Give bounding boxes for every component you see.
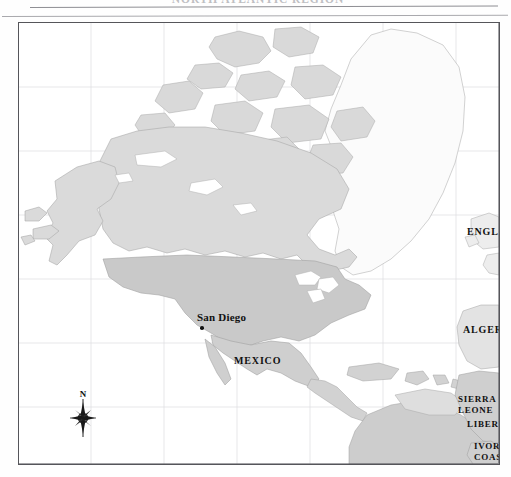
sierra-leone-line-1: SIERRA — [458, 394, 497, 404]
map-label-sierra-leone: SIERRA LEONE — [458, 394, 497, 415]
header-rule-upper — [30, 6, 498, 8]
map-label-algeria: ALGERIA — [463, 324, 500, 335]
compass-rose: N — [62, 389, 104, 439]
landmass-central-america — [307, 379, 367, 421]
landmass-north-africa — [457, 305, 499, 369]
map-label-ivory-coast: IVORY COAST — [474, 441, 500, 462]
map-label-mexico: MEXICO — [234, 355, 281, 366]
header-rule-lower — [2, 15, 508, 17]
landmass-united-states — [103, 255, 371, 347]
city-marker-san-diego — [200, 326, 204, 330]
map-label-san-diego: San Diego — [197, 311, 246, 323]
compass-star-icon — [69, 399, 97, 437]
ivory-coast-line-2: COAST — [474, 452, 500, 462]
page-header-text: NORTH ATLANTIC REGION — [108, 0, 408, 5]
landmass-europe — [465, 213, 499, 275]
map-figure-page: NORTH ATLANTIC REGION — [0, 0, 511, 477]
landmass-caribbean — [347, 363, 461, 389]
sierra-leone-line-2: LEONE — [458, 405, 493, 415]
map-label-liberia: LIBERIA — [467, 419, 500, 430]
ivory-coast-line-1: IVORY — [474, 441, 500, 451]
compass-north-label: N — [62, 389, 104, 399]
map-label-england: ENGLAN — [467, 226, 500, 237]
